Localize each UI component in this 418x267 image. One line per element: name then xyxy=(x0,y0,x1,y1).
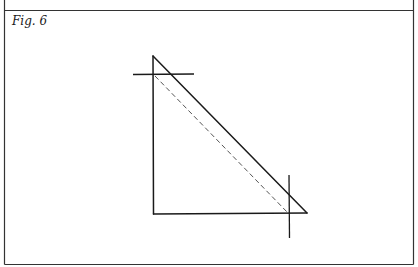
horizontal-tick-line xyxy=(133,74,194,75)
triangle-hypotenuse xyxy=(153,56,307,213)
figure-label: Fig. 6 xyxy=(12,14,47,28)
right-triangle xyxy=(153,56,307,214)
frame-border xyxy=(5,0,414,265)
dashed-parallel-line xyxy=(155,76,288,213)
figure-diagram xyxy=(0,0,418,267)
vertical-tick-line xyxy=(289,175,290,238)
figure-frame: Fig. 6 xyxy=(0,0,418,267)
triangle-vertical-leg xyxy=(153,56,154,214)
triangle-base-leg xyxy=(154,213,308,214)
